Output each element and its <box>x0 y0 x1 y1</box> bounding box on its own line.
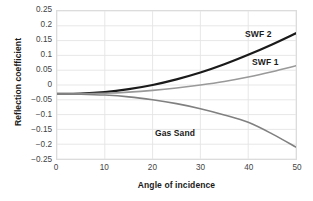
y-tick-label: −0.2 <box>16 141 52 149</box>
x-tick-label: 30 <box>186 164 216 172</box>
y-tick-label: 0.2 <box>16 21 52 29</box>
y-tick-label: 0 <box>16 81 52 89</box>
x-tick-label: 20 <box>137 164 167 172</box>
y-tick-label: −0.1 <box>16 111 52 119</box>
series-label-swf-2: SWF 2 <box>245 29 271 39</box>
y-tick-label: 0.1 <box>16 51 52 59</box>
x-tick-label: 40 <box>234 164 264 172</box>
y-tick-label: −0.15 <box>16 126 52 134</box>
chart-figure: Reflection coefficient 0.250.20.150.10.0… <box>0 0 313 201</box>
x-axis-title: Angle of incidence <box>56 180 297 190</box>
x-tick-label: 50 <box>282 164 312 172</box>
y-axis-tick-labels: 0.250.20.150.10.050−0.05−0.1−0.15−0.2−0.… <box>16 10 52 160</box>
x-axis-tick-labels: 01020304050 <box>56 164 297 178</box>
series-label-swf-1: SWF 1 <box>252 57 278 67</box>
y-tick-label: 0.25 <box>16 6 52 14</box>
y-tick-label: −0.25 <box>16 156 52 164</box>
series-line-gas-sand <box>57 94 296 147</box>
x-tick-label: 10 <box>89 164 119 172</box>
y-tick-label: 0.05 <box>16 66 52 74</box>
series-label-gas-sand: Gas Sand <box>155 128 195 138</box>
y-tick-label: 0.15 <box>16 36 52 44</box>
x-tick-label: 0 <box>41 164 71 172</box>
y-tick-label: −0.05 <box>16 96 52 104</box>
